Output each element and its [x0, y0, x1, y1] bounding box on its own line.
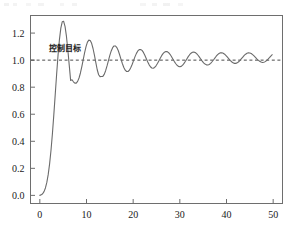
y-tick-label: 0.0 [12, 190, 25, 201]
chart-figure: 0.00.20.40.60.81.01.2 01020304050 控制目标 [0, 0, 297, 241]
x-tick-label: 10 [82, 209, 92, 220]
step-response-plot: 0.00.20.40.60.81.01.2 01020304050 控制目标 [0, 0, 297, 241]
scan-artifact [0, 0, 297, 9]
x-tick-label: 0 [37, 209, 42, 220]
x-tick-label: 40 [222, 209, 232, 220]
x-tick-label: 30 [175, 209, 185, 220]
y-tick-label: 0.2 [12, 163, 25, 174]
y-tick-label: 1.2 [12, 28, 25, 39]
y-tick-label: 0.4 [12, 136, 25, 147]
y-axis-ticks: 0.00.20.40.60.81.01.2 [12, 28, 35, 201]
y-tick-label: 1.0 [12, 55, 25, 66]
control-target-annotation: 控制目标 [49, 43, 81, 53]
x-tick-label: 50 [268, 209, 278, 220]
x-tick-label: 20 [128, 209, 138, 220]
x-axis-ticks: 01020304050 [37, 199, 278, 220]
y-tick-label: 0.8 [12, 82, 25, 93]
y-tick-label: 0.6 [12, 109, 25, 120]
